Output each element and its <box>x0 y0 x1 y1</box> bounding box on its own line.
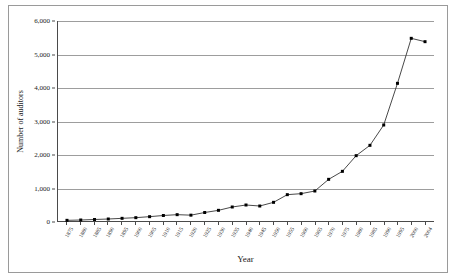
x-axis-tick-mark <box>384 222 385 225</box>
x-axis-tick-label: 1910 <box>160 226 171 239</box>
x-axis-tick-mark <box>246 222 247 225</box>
x-axis-tick-mark <box>397 222 398 225</box>
x-axis-tick-label: 1970 <box>326 226 337 239</box>
data-point-marker <box>121 217 124 220</box>
x-axis-tick-label: 1875 <box>64 226 75 239</box>
x-axis-tick-label: 1930 <box>215 226 226 239</box>
x-axis-tick-label: 1950 <box>271 226 282 239</box>
x-axis-tick-mark <box>287 222 288 225</box>
y-axis-tick-label: 4,000 <box>34 84 50 92</box>
x-axis-tick-mark <box>232 222 233 225</box>
y-axis-tick-label: 6,000 <box>34 17 50 25</box>
x-axis-tick-mark <box>176 222 177 225</box>
y-axis-tick-mark <box>52 88 55 89</box>
x-axis-tick-label: 1940 <box>243 226 254 239</box>
x-axis-tick-mark <box>94 222 95 225</box>
x-axis-tick-label: 1880 <box>77 226 88 239</box>
data-point-marker <box>355 154 358 157</box>
x-axis-tick-mark <box>259 222 260 225</box>
x-axis-tick-mark <box>204 222 205 225</box>
x-axis-tick-label: 2004 <box>423 226 434 239</box>
data-point-marker <box>203 211 206 214</box>
x-axis-tick-mark <box>411 222 412 225</box>
x-axis-tick-mark <box>301 222 302 225</box>
data-point-marker <box>368 144 371 147</box>
y-axis-tick-mark <box>52 21 55 22</box>
data-point-marker <box>410 37 413 40</box>
x-axis-tick-label: 1915 <box>174 226 185 239</box>
y-axis-tick-mark <box>52 54 55 55</box>
line-series <box>58 21 434 221</box>
y-axis-tick-mark <box>52 155 55 156</box>
x-axis-tick-mark <box>107 222 108 225</box>
x-axis-tick-label: 1890 <box>105 226 116 239</box>
data-point-marker <box>396 82 399 85</box>
data-point-marker <box>189 214 192 217</box>
x-axis-tick-label: 1995 <box>395 226 406 239</box>
x-axis-tick-label: 1955 <box>284 226 295 239</box>
data-point-marker <box>231 206 234 209</box>
data-point-marker <box>327 178 330 181</box>
data-point-marker <box>286 193 289 196</box>
x-axis-tick-mark <box>163 222 164 225</box>
x-axis-tick-label: 2000 <box>409 226 420 239</box>
x-axis-tick-label: 1900 <box>133 226 144 239</box>
data-point-marker <box>272 201 275 204</box>
plot-area <box>57 21 434 222</box>
x-axis-tick-label: 1885 <box>91 226 102 239</box>
x-axis-tick-label: 1925 <box>202 226 213 239</box>
y-axis-tick-label: 5,000 <box>34 51 50 59</box>
x-axis-tick-label: 1920 <box>188 226 199 239</box>
x-axis-tick-mark <box>315 222 316 225</box>
chart-figure: Number of auditors 01,0002,0003,0004,000… <box>0 0 456 279</box>
x-axis-tick-mark <box>356 222 357 225</box>
data-point-marker <box>176 213 179 216</box>
x-axis-tick-labels: 1875188018851890189519001905191019151920… <box>57 226 434 252</box>
x-axis-tick-mark <box>218 222 219 225</box>
series-line <box>67 38 425 220</box>
data-point-marker <box>300 192 303 195</box>
x-axis-tick-label: 1960 <box>298 226 309 239</box>
x-axis-tick-label: 1990 <box>381 226 392 239</box>
data-point-marker <box>424 40 427 43</box>
data-point-marker <box>382 124 385 127</box>
x-axis-tick-label: 1965 <box>312 226 323 239</box>
data-point-marker <box>134 216 137 219</box>
data-point-marker <box>217 209 220 212</box>
x-axis-tick-mark <box>135 222 136 225</box>
y-axis-tick-labels: 01,0002,0003,0004,0005,0006,000 <box>0 21 55 222</box>
x-axis-tick-mark <box>342 222 343 225</box>
x-axis-tick-label: 1985 <box>367 226 378 239</box>
x-axis-tick-mark <box>80 222 81 225</box>
x-axis-tick-label: 1935 <box>229 226 240 239</box>
data-point-marker <box>341 170 344 173</box>
x-axis-tick-label: 1945 <box>257 226 268 239</box>
x-axis-tick-label: 1975 <box>340 226 351 239</box>
data-point-marker <box>148 215 151 218</box>
x-axis-tick-mark <box>425 222 426 225</box>
data-point-marker <box>162 214 165 217</box>
x-axis-tick-label: 1895 <box>119 226 130 239</box>
y-axis-tick-mark <box>52 222 55 223</box>
x-axis-tick-label: 1905 <box>146 226 157 239</box>
y-axis-tick-mark <box>52 188 55 189</box>
y-axis-tick-label: 0 <box>47 218 51 226</box>
x-axis-tick-mark <box>190 222 191 225</box>
y-axis-tick-label: 2,000 <box>34 151 50 159</box>
x-axis-tick-mark <box>273 222 274 225</box>
data-point-marker <box>93 218 96 221</box>
x-axis-tick-mark <box>66 222 67 225</box>
x-axis-tick-mark <box>121 222 122 225</box>
y-axis-tick-label: 3,000 <box>34 118 50 126</box>
x-axis-tick-mark <box>149 222 150 225</box>
x-axis-tick-label: 1980 <box>353 226 364 239</box>
data-point-marker <box>258 205 261 208</box>
data-point-marker <box>245 204 248 207</box>
x-axis-tick-mark <box>370 222 371 225</box>
y-axis-tick-label: 1,000 <box>34 185 50 193</box>
x-axis-title: Year <box>57 254 434 264</box>
x-axis-tick-mark <box>328 222 329 225</box>
data-point-marker <box>313 190 316 193</box>
data-point-marker <box>107 218 110 221</box>
y-axis-tick-mark <box>52 121 55 122</box>
